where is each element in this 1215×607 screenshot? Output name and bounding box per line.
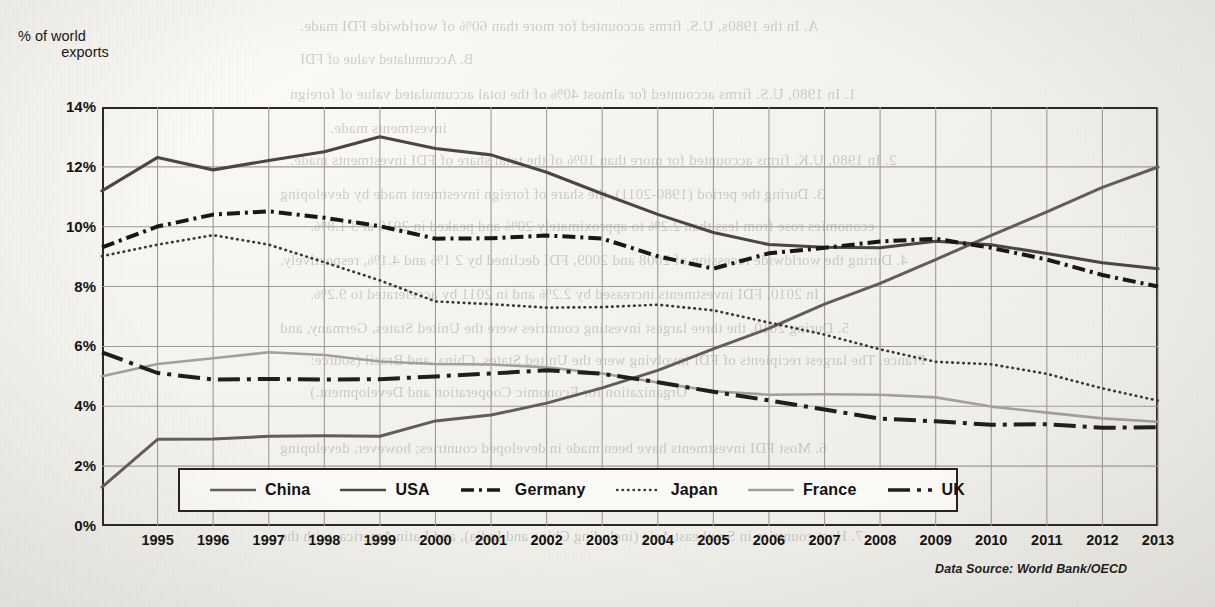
x-tick-2009: 2009 bbox=[909, 532, 963, 548]
x-tick-1999: 1999 bbox=[353, 532, 407, 548]
x-tick-2002: 2002 bbox=[520, 532, 574, 548]
y-tick-12: 12% bbox=[30, 158, 96, 175]
x-tick-2007: 2007 bbox=[798, 532, 852, 548]
legend-item-germany[interactable]: Germany bbox=[460, 481, 586, 499]
legend-swatch-germany bbox=[460, 483, 506, 497]
x-tick-1996: 1996 bbox=[186, 532, 240, 548]
legend-label-germany: Germany bbox=[515, 481, 586, 499]
legend-swatch-usa bbox=[340, 483, 386, 497]
x-tick-2006: 2006 bbox=[742, 532, 796, 548]
legend-label-uk: UK bbox=[942, 481, 966, 499]
legend-item-uk[interactable]: UK bbox=[887, 481, 966, 499]
export-share-chart: % of world exports 14%12%10%8%6%4%2%0% 1… bbox=[0, 0, 1215, 607]
x-tick-2010: 2010 bbox=[964, 532, 1018, 548]
x-tick-1997: 1997 bbox=[242, 532, 296, 548]
x-tick-2003: 2003 bbox=[575, 532, 629, 548]
chart-legend: ChinaUSAGermanyJapanFranceUK bbox=[178, 468, 958, 512]
legend-item-usa[interactable]: USA bbox=[340, 481, 429, 499]
data-source-note: Data Source: World Bank/OECD bbox=[935, 562, 1127, 576]
legend-label-france: France bbox=[803, 481, 857, 499]
legend-item-japan[interactable]: Japan bbox=[616, 481, 718, 499]
x-tick-2001: 2001 bbox=[464, 532, 518, 548]
x-tick-2012: 2012 bbox=[1075, 532, 1129, 548]
x-tick-2005: 2005 bbox=[686, 532, 740, 548]
x-tick-1998: 1998 bbox=[297, 532, 351, 548]
y-axis-tick-labels: 14%12%10%8%6%4%2%0% bbox=[26, 0, 96, 607]
legend-swatch-japan bbox=[616, 483, 662, 497]
legend-label-china: China bbox=[265, 481, 310, 499]
x-tick-2011: 2011 bbox=[1020, 532, 1074, 548]
y-tick-2: 2% bbox=[30, 457, 96, 474]
x-tick-2004: 2004 bbox=[631, 532, 685, 548]
legend-item-china[interactable]: China bbox=[210, 481, 310, 499]
x-tick-2000: 2000 bbox=[408, 532, 462, 548]
x-tick-1995: 1995 bbox=[131, 532, 185, 548]
x-tick-2013: 2013 bbox=[1131, 532, 1185, 548]
legend-item-france[interactable]: France bbox=[748, 481, 857, 499]
plot-area bbox=[102, 107, 1158, 526]
y-tick-10: 10% bbox=[30, 218, 96, 235]
legend-swatch-uk bbox=[887, 483, 933, 497]
y-tick-8: 8% bbox=[30, 278, 96, 295]
x-tick-2008: 2008 bbox=[853, 532, 907, 548]
y-tick-14: 14% bbox=[30, 98, 96, 115]
legend-label-usa: USA bbox=[395, 481, 429, 499]
legend-label-japan: Japan bbox=[671, 481, 718, 499]
y-tick-4: 4% bbox=[30, 397, 96, 414]
legend-swatch-china bbox=[210, 483, 256, 497]
y-tick-6: 6% bbox=[30, 337, 96, 354]
x-axis-tick-labels: 1995199619971998199920002001200220032004… bbox=[0, 532, 1215, 556]
legend-swatch-france bbox=[748, 483, 794, 497]
